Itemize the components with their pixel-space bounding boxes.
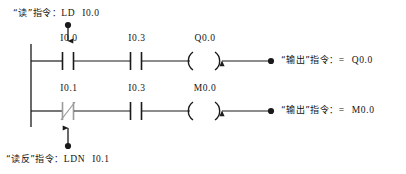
annotation-right-1-operand: Q0.0 xyxy=(352,55,373,65)
annotation-bottom-mnemonic: LDN xyxy=(64,154,85,164)
connector-out2 xyxy=(222,108,274,114)
annotation-right-2-operand: M0.0 xyxy=(352,105,375,115)
annotation-right-2-keyword: 输出 xyxy=(286,105,305,115)
contact-i03-rung-2[interactable] xyxy=(131,102,142,120)
contact-i03-rung-1-label: I0.3 xyxy=(121,33,153,43)
annotation-top-mnemonic: LD xyxy=(61,8,75,18)
annotation-top-word: 指令： xyxy=(33,8,62,18)
annotation-right-2-word: 指令： xyxy=(310,105,339,115)
contact-i01-label: I0.1 xyxy=(53,83,85,93)
contact-i00-label: I0.0 xyxy=(53,33,85,43)
contact-i01[interactable] xyxy=(61,102,75,120)
annotation-right-1: “输出”指令：=Q0.0 xyxy=(281,53,373,66)
annotation-bottom-operand: I0.1 xyxy=(92,154,109,164)
annotation-right-1-mnemonic: = xyxy=(339,55,345,65)
annotation-right-1-keyword: 输出 xyxy=(286,55,305,65)
contact-i03-rung-1[interactable] xyxy=(131,52,142,70)
coil-q00-label: Q0.0 xyxy=(188,33,222,43)
annotation-top: “读”指令：LDI0.0 xyxy=(13,6,100,19)
coil-m00-label: M0.0 xyxy=(188,83,222,93)
coil-q00[interactable] xyxy=(188,52,219,70)
contact-i00[interactable] xyxy=(63,52,74,70)
contact-i03-rung-2-label: I0.3 xyxy=(121,83,153,93)
annotation-bottom: “读反”指令：LDNI0.1 xyxy=(6,152,110,165)
annotation-right-2-mnemonic: = xyxy=(339,105,345,115)
connector-ldn xyxy=(65,128,71,149)
annotation-right-2: “输出”指令：=M0.0 xyxy=(281,103,375,116)
rung-2 xyxy=(31,102,220,120)
rung-1 xyxy=(31,52,220,70)
annotation-bottom-keyword: 读反 xyxy=(11,154,30,164)
connector-out1 xyxy=(222,58,274,64)
annotation-right-1-word: 指令： xyxy=(310,55,339,65)
ladder-logic-diagram: I0.0 I0.3 Q0.0 I0.1 I0.3 M0.0 “读”指令：LDI0… xyxy=(0,0,406,174)
annotation-bottom-word: 指令： xyxy=(35,154,64,164)
coil-m00[interactable] xyxy=(188,102,219,120)
annotation-top-operand: I0.0 xyxy=(82,8,99,18)
annotation-top-keyword: 读 xyxy=(18,8,28,18)
